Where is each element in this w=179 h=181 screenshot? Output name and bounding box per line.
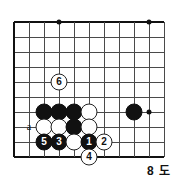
board-point-label: a <box>27 122 31 132</box>
move-number: 4 <box>86 152 92 162</box>
star-point <box>147 110 152 115</box>
go-diagram-figure: a531246 8 도 <box>0 0 179 181</box>
go-stone-black[interactable] <box>126 104 143 121</box>
go-board[interactable]: a531246 <box>0 0 179 181</box>
move-number: 6 <box>56 77 62 87</box>
grid-line-vertical <box>29 22 30 157</box>
move-number: 5 <box>41 137 47 147</box>
move-number: 2 <box>101 137 107 147</box>
grid-line-vertical <box>149 22 150 157</box>
move-number: 3 <box>56 137 62 147</box>
go-stone-white-move-2[interactable]: 2 <box>96 134 113 151</box>
grid-line-vertical <box>164 22 165 157</box>
grid-line-vertical <box>134 22 135 157</box>
grid-line-vertical <box>119 22 120 157</box>
star-point <box>57 20 62 25</box>
grid-line-vertical <box>13 22 15 157</box>
diagram-caption: 8 도 <box>147 161 171 178</box>
go-stone-white-move-4[interactable]: 4 <box>81 149 98 166</box>
move-number: 1 <box>86 137 92 147</box>
go-stone-white-move-6[interactable]: 6 <box>51 74 68 91</box>
star-point <box>147 20 152 25</box>
